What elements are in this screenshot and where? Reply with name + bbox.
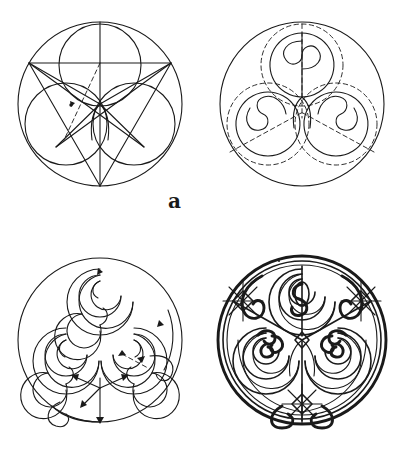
spiral-bottom-right [101, 328, 179, 419]
arrow-head-upper-right [157, 320, 164, 327]
star-line-8 [100, 63, 171, 104]
s-curve-bottom-right [318, 96, 357, 130]
spiral-unit-top [270, 33, 334, 97]
dashed-axis-left [230, 112, 303, 152]
inner-circle-bottom-left [25, 83, 107, 165]
s-curve-bottom-left [247, 96, 286, 130]
panel-d-drawing [202, 236, 403, 471]
panel-a: a [0, 0, 201, 235]
d-top-core-scurve [291, 284, 306, 315]
star-line-4 [100, 63, 171, 186]
spiral-bottom-right [305, 328, 371, 394]
arrow-head-down [96, 417, 104, 424]
spiral-unit-bottom-right [304, 92, 368, 156]
figure-plate: a [0, 0, 403, 471]
star-line-7 [29, 63, 100, 104]
arrow-head-lower-left [80, 400, 87, 408]
panel-b-drawing [202, 0, 403, 235]
spiral-bottom-left [21, 328, 99, 419]
panel-a-geometry [18, 22, 182, 186]
spiral-top [55, 269, 133, 360]
spiral-br-lower-turn-1 [133, 373, 179, 419]
star-line-3 [29, 63, 100, 186]
dashed-hint-right [122, 354, 148, 368]
rosette-rays-b [282, 384, 322, 424]
spiral-top-turn-4 [91, 281, 121, 310]
arrow-head-mid-right [137, 356, 145, 363]
trumpet-sweep-bottom [52, 406, 100, 422]
direction-arrows [71, 268, 164, 424]
spiral-top [269, 266, 335, 336]
spiral-top-lower-turn-1 [55, 314, 101, 360]
spiral-bottom-left [233, 328, 299, 394]
star-line-1 [29, 63, 144, 147]
d-stray-mark [278, 260, 280, 262]
panel-c: c [0, 236, 201, 471]
panel-d: d [202, 236, 403, 471]
spiral-unit-bottom-left [236, 92, 300, 156]
rosette-bottom [282, 384, 322, 424]
panel-label-a: a [168, 191, 181, 211]
panel-b: b [202, 0, 403, 235]
inner-circle-bottom-right [93, 83, 175, 165]
spiral-top-core [93, 281, 100, 298]
star-line-2 [56, 63, 171, 147]
trumpet-sweep-right [164, 310, 173, 370]
panel-c-drawing [0, 236, 201, 471]
